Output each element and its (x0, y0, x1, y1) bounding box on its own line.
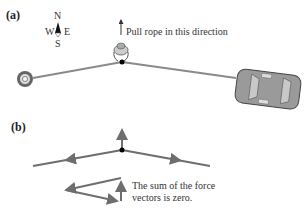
pull-instruction: Pull rope in this direction (126, 26, 228, 37)
compass-west: W (45, 26, 54, 37)
rope-b-right (122, 150, 210, 166)
compass-south: S (55, 38, 61, 49)
knot-b (120, 148, 125, 153)
panel-a-label: (a) (6, 8, 20, 23)
compass-north: N (54, 10, 61, 21)
rope-right (122, 62, 236, 78)
caption-line-1: The sum of the force (132, 180, 215, 191)
rope-b-left (33, 150, 122, 166)
vector-triangle (66, 178, 121, 201)
rope-left (33, 62, 122, 78)
knot-a (120, 60, 125, 65)
compass-icon (55, 22, 61, 37)
car-icon (234, 68, 302, 110)
compass-east: E (64, 26, 70, 37)
panel-b-label: (b) (11, 120, 26, 135)
person-icon (114, 43, 128, 61)
caption-line-2: vectors is zero. (132, 192, 192, 203)
tree-icon (17, 71, 33, 87)
